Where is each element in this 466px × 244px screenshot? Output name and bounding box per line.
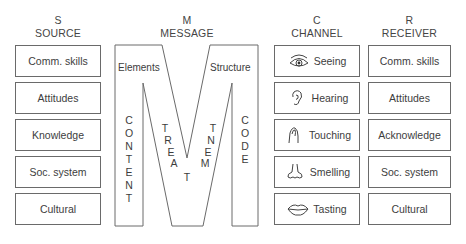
channel-box-tasting: Tasting xyxy=(274,193,360,225)
receiver-box-attitudes: Attitudes xyxy=(368,82,451,114)
receiver-box-cultural: Cultural xyxy=(368,193,451,225)
box-label: Hearing xyxy=(312,92,349,104)
box-label: Attitudes xyxy=(389,92,430,104)
lips-icon xyxy=(287,200,309,218)
receiver-box-comm-skills: Comm. skills xyxy=(368,45,451,77)
message-treat-bottom-t: T xyxy=(182,171,192,184)
channel-box-seeing: Seeing xyxy=(274,45,360,77)
message-structure-label: Structure xyxy=(210,62,251,73)
message-ment-m: M xyxy=(200,157,210,170)
eye-icon xyxy=(288,52,310,70)
receiver-box-soc-system: Soc. system xyxy=(368,156,451,188)
ear-icon xyxy=(286,89,308,107)
message-code-vertical: C O D E xyxy=(240,114,250,166)
box-label: Tasting xyxy=(313,203,346,215)
receiver-box-acknowledge: Acknowledge xyxy=(368,119,451,151)
channel-box-smelling: Smelling xyxy=(274,156,360,188)
box-label: Soc. system xyxy=(381,166,438,178)
box-label: Acknowledge xyxy=(378,129,440,141)
box-label: Smelling xyxy=(310,166,350,178)
box-label: Comm. skills xyxy=(380,55,440,67)
box-label: Cultural xyxy=(391,203,427,215)
nose-icon xyxy=(284,163,306,181)
message-elements-label: Elements xyxy=(118,62,160,73)
channel-box-hearing: Hearing xyxy=(274,82,360,114)
message-content-vertical: C O N T E N T xyxy=(124,114,134,205)
hand-icon xyxy=(283,126,305,144)
box-label: Seeing xyxy=(314,55,347,67)
message-treat-a: A xyxy=(169,157,179,170)
box-label: Touching xyxy=(309,129,351,141)
channel-box-touching: Touching xyxy=(274,119,360,151)
